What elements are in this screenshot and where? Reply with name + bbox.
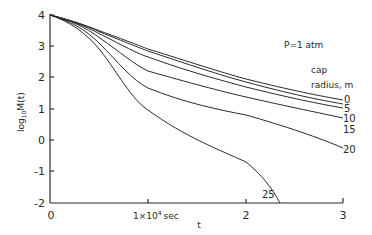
y-tick-label: 3 [38, 40, 45, 53]
series-label-10: 10 [343, 113, 356, 124]
y-tick-label: -2 [34, 197, 45, 210]
y-axis-label: log10M(t) [16, 92, 27, 132]
pressure-annotation: P=1 atm [284, 40, 323, 50]
x-unit-label: 1×104sec [133, 209, 179, 221]
series-label-15: 15 [343, 124, 356, 135]
x-tick-label: 0 [48, 209, 55, 222]
curve-radius-20 [50, 15, 343, 148]
svg-text:log10M(t): log10M(t) [16, 92, 27, 132]
chart: 4 3 2 1 0 -1 -2 log10M(t) 0 2 3 1×104sec… [0, 0, 372, 235]
y-tick-label: 0 [38, 134, 45, 147]
y-tick-label: 1 [38, 103, 45, 116]
series-label-25: 25 [262, 189, 275, 200]
radius-label: radius, m [311, 80, 353, 90]
x-tick-label: 3 [340, 209, 347, 222]
cap-label: cap [311, 65, 327, 75]
y-tick-label: 4 [38, 9, 45, 22]
curve-radius-25 [50, 15, 280, 203]
x-axis-label: t [197, 220, 201, 230]
series-label-20: 20 [343, 144, 356, 155]
curve-radius-0 [50, 15, 343, 100]
y-tick-labels: 4 3 2 1 0 -1 -2 [34, 9, 45, 210]
y-tick-label: -1 [34, 165, 45, 178]
x-tick-label: 2 [243, 209, 250, 222]
y-tick-label: 2 [38, 71, 45, 84]
